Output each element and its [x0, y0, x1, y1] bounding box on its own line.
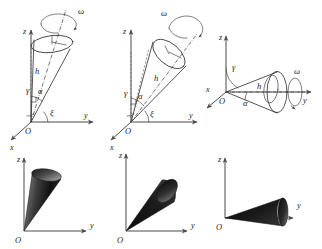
- gamma-label: γ: [232, 62, 236, 72]
- omega-rotation-arrow: [288, 78, 302, 109]
- z-axis-label: z: [217, 155, 222, 164]
- gamma-label: γ: [124, 88, 128, 98]
- xi-label: ξ: [50, 108, 54, 118]
- z-axis-label: z: [218, 33, 223, 42]
- y-axis-label: y: [188, 111, 193, 120]
- origin-label: O: [125, 127, 131, 136]
- height-label: h: [154, 73, 158, 83]
- xi-arc: [145, 111, 149, 122]
- panel-top-right: z y x O ω h γ α: [205, 20, 322, 150]
- omega-rotation-arrow: [41, 14, 76, 33]
- height-label: h: [257, 81, 261, 91]
- z-axis-label: z: [16, 155, 21, 164]
- panel-top-middle: z y x O ω h γ α ξ: [105, 0, 215, 150]
- gamma-label: γ: [26, 85, 30, 95]
- xi-label: ξ: [150, 109, 154, 119]
- origin-label: O: [219, 97, 225, 106]
- cone-solid: [225, 198, 288, 226]
- alpha-label: α: [243, 98, 248, 108]
- omega-label: ω: [78, 6, 84, 16]
- cone-solid: [126, 175, 182, 231]
- omega-label: ω: [294, 66, 300, 76]
- alpha-label: α: [38, 86, 43, 96]
- y-axis-label: y: [302, 96, 307, 105]
- origin-label: O: [117, 236, 123, 245]
- omega-rotation-arrow: [169, 16, 203, 38]
- z-axis-label: z: [22, 27, 27, 36]
- origin-label: O: [216, 223, 222, 232]
- origin-label: O: [25, 127, 31, 136]
- xi-arc: [44, 112, 48, 122]
- alpha-label: α: [138, 91, 143, 101]
- y-axis-label: y: [296, 201, 301, 210]
- right-angle-mark: [131, 100, 136, 104]
- y-axis-label: y: [89, 221, 94, 230]
- alpha-arc: [36, 97, 42, 101]
- y-axis-label: y: [190, 221, 195, 230]
- origin-label: O: [15, 236, 21, 245]
- panel-bottom-middle: z y O: [105, 148, 215, 249]
- panel-bottom-right: z y O: [205, 148, 322, 249]
- x-axis-label: x: [205, 85, 210, 94]
- cone-wireframe: [131, 34, 190, 122]
- panel-top-left: z y x O ω h γ α ξ: [0, 0, 110, 150]
- omega-label: ω: [161, 8, 167, 18]
- cone-axis-dashdot: [131, 34, 197, 122]
- y-axis-label: y: [83, 111, 88, 120]
- z-axis-label: z: [118, 151, 123, 160]
- height-label: h: [35, 66, 39, 76]
- z-axis-label: z: [122, 27, 127, 36]
- figure-root: z y x O ω h γ α ξ: [0, 0, 322, 249]
- cone-solid: [24, 167, 62, 231]
- panel-bottom-left: z y O: [0, 148, 110, 249]
